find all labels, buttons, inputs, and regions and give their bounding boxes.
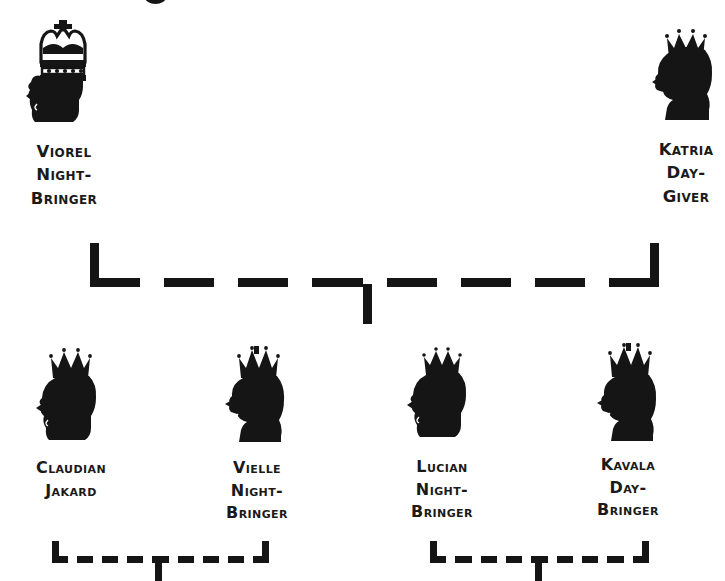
crowned-male-silhouette-icon bbox=[0, 18, 139, 126]
connector-dash bbox=[535, 278, 585, 287]
spacer bbox=[367, 445, 517, 456]
spacer bbox=[182, 446, 332, 457]
connector-dash bbox=[102, 556, 118, 563]
person-label-vielle: Vielle Night- Bringer bbox=[182, 457, 332, 525]
connector-dash bbox=[455, 556, 471, 563]
connector-dash bbox=[77, 556, 93, 563]
connector-dash bbox=[481, 556, 497, 563]
connector-dash bbox=[430, 556, 446, 563]
person-node-kavala[interactable]: Kavala Day- Bringer bbox=[553, 343, 703, 522]
clipped-text-glyph bbox=[145, 0, 166, 4]
connector-dashed-bar bbox=[90, 278, 659, 287]
connector-children-drop bbox=[535, 560, 542, 581]
connector-children-drop bbox=[363, 284, 372, 324]
connector-children-drop bbox=[155, 560, 162, 581]
person-node-katria[interactable]: Katria Day- Giver bbox=[611, 16, 725, 208]
spacer bbox=[0, 446, 146, 457]
crowned-female-silhouette-icon bbox=[553, 343, 703, 443]
person-node-vielle[interactable]: Vielle Night- Bringer bbox=[182, 346, 332, 525]
connector-dash bbox=[164, 278, 214, 287]
connector-dash bbox=[52, 556, 68, 563]
spacer bbox=[611, 124, 725, 138]
family-tree-canvas: Viorel Night- Bringer Katria Day- Giver bbox=[0, 0, 725, 581]
connector-dash bbox=[90, 278, 140, 287]
crowned-male-silhouette-icon bbox=[367, 345, 517, 445]
connector-dash bbox=[387, 278, 437, 287]
connector-dash bbox=[238, 278, 288, 287]
connector-dash bbox=[607, 556, 623, 563]
connector-dash bbox=[312, 278, 362, 287]
person-node-claudian[interactable]: Claudian Jakard bbox=[0, 346, 146, 502]
person-label-lucian: Lucian Night- Bringer bbox=[367, 456, 517, 524]
spacer bbox=[553, 443, 703, 454]
connector-dash bbox=[557, 556, 573, 563]
crowned-female-silhouette-icon bbox=[611, 16, 725, 124]
connector-dash bbox=[127, 556, 143, 563]
person-node-viorel[interactable]: Viorel Night- Bringer bbox=[0, 18, 139, 210]
crowned-female-silhouette-icon bbox=[182, 346, 332, 446]
person-node-lucian[interactable]: Lucian Night- Bringer bbox=[367, 345, 517, 524]
crowned-male-silhouette-icon bbox=[0, 346, 146, 446]
connector-dash bbox=[203, 556, 219, 563]
connector-dash bbox=[253, 556, 269, 563]
person-label-viorel: Viorel Night- Bringer bbox=[0, 140, 139, 210]
connector-dash bbox=[582, 556, 598, 563]
connector-dash bbox=[609, 278, 659, 287]
connector-dash bbox=[633, 556, 649, 563]
connector-dash bbox=[178, 556, 194, 563]
person-label-kavala: Kavala Day- Bringer bbox=[553, 454, 703, 522]
connector-dash bbox=[228, 556, 244, 563]
person-label-katria: Katria Day- Giver bbox=[611, 138, 725, 208]
connector-dash bbox=[506, 556, 522, 563]
person-label-claudian: Claudian Jakard bbox=[0, 457, 146, 502]
connector-dash bbox=[461, 278, 511, 287]
spacer bbox=[0, 126, 139, 140]
